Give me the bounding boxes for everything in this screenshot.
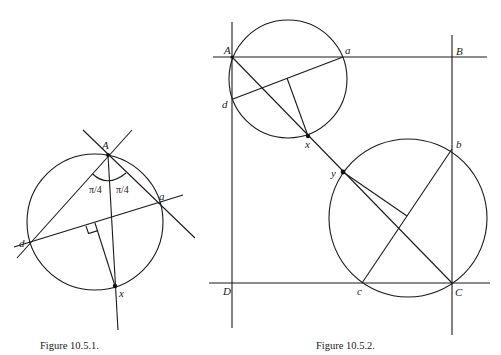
label-y: y (330, 167, 336, 179)
label-d: d (222, 98, 228, 110)
label-D: D (222, 285, 231, 297)
caption-figure-10-5-1: Figure 10.5.1. (40, 340, 99, 351)
perpendicular-x (287, 78, 308, 136)
label-A: A (101, 139, 109, 151)
point-A (106, 153, 110, 157)
figure-10-5-1: A a d x π/4 π/4 Figure 10.5.1. (14, 130, 195, 351)
perpendicular-y (343, 172, 407, 216)
line-A-d (17, 130, 132, 258)
figure-10-5-2: A a B d x y b c C D Figure 10.5.2. (209, 20, 490, 351)
label-a: a (159, 190, 165, 202)
label-b: b (456, 138, 462, 150)
chord-d-a (233, 57, 343, 99)
label-x: x (304, 138, 310, 150)
point-x (113, 284, 117, 288)
angle-label-right: π/4 (116, 184, 129, 195)
line-d-a (14, 195, 183, 247)
label-x: x (118, 287, 124, 299)
label-A: A (223, 44, 231, 56)
angle-label-left: π/4 (89, 184, 102, 195)
label-C: C (455, 286, 463, 298)
label-B: B (456, 45, 463, 57)
label-a: a (345, 44, 351, 56)
circle-upper (229, 20, 347, 138)
geometry-figures: A a d x π/4 π/4 Figure 10.5.1. A a B d (0, 0, 501, 355)
label-d: d (19, 237, 25, 249)
label-c: c (357, 285, 362, 297)
circle-lower (329, 139, 487, 297)
caption-figure-10-5-2: Figure 10.5.2. (316, 340, 375, 351)
point-A (230, 55, 233, 58)
point-y (341, 170, 346, 175)
